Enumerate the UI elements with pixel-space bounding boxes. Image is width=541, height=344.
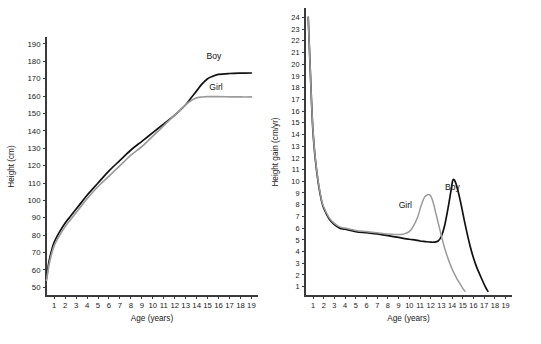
x-tick-label: 5 bbox=[354, 301, 358, 310]
y-tick-label: 18 bbox=[291, 83, 299, 92]
height-velocity-chart-svg: 1234567891011121314151617181920212223241… bbox=[270, 0, 541, 344]
y-tick-label: 7 bbox=[295, 212, 299, 221]
series-label-boy: Boy bbox=[207, 51, 223, 61]
x-tick-label: 12 bbox=[427, 301, 435, 310]
axis-lines bbox=[305, 8, 512, 296]
axes bbox=[305, 8, 512, 296]
y-tick-label: 120 bbox=[27, 161, 41, 170]
y-tick-label: 16 bbox=[291, 107, 299, 116]
y-tick-label: 90 bbox=[32, 213, 41, 222]
x-tick-label: 17 bbox=[480, 301, 488, 310]
x-tick-label: 6 bbox=[107, 301, 111, 310]
x-tick-label: 5 bbox=[96, 301, 101, 310]
chart-panel-height-distance: 5060708090100110120130140150160170180190… bbox=[0, 0, 271, 344]
y-tick-label: 70 bbox=[32, 248, 41, 257]
x-axis-title: Age (years) bbox=[131, 314, 174, 323]
axis-lines bbox=[46, 37, 258, 296]
series-label-girl: Girl bbox=[209, 82, 222, 92]
y-tick-label: 22 bbox=[291, 36, 299, 45]
series-girl bbox=[308, 17, 465, 291]
series-label-girl: Girl bbox=[399, 200, 412, 210]
x-tick-label: 10 bbox=[405, 301, 413, 310]
y-tick-label: 170 bbox=[27, 74, 41, 83]
growth-charts-figure: 5060708090100110120130140150160170180190… bbox=[0, 0, 541, 344]
x-tick-label: 8 bbox=[386, 301, 390, 310]
series-boy bbox=[308, 17, 488, 291]
curve-boy bbox=[308, 17, 488, 291]
x-tick-label: 8 bbox=[129, 301, 133, 310]
y-tick-label: 10 bbox=[291, 177, 299, 186]
y-tick-label: 14 bbox=[291, 130, 299, 139]
x-tick-label: 12 bbox=[170, 301, 179, 310]
y-tick-label: 13 bbox=[291, 142, 299, 151]
y-tick-label: 4 bbox=[295, 247, 299, 256]
x-tick-label: 4 bbox=[85, 301, 90, 310]
x-tick-label: 13 bbox=[437, 301, 445, 310]
x-tick-label: 6 bbox=[364, 301, 368, 310]
x-tick-label: 13 bbox=[181, 301, 190, 310]
x-tick-label: 1 bbox=[311, 301, 315, 310]
x-tick-label: 18 bbox=[236, 301, 245, 310]
y-tick-label: 12 bbox=[291, 154, 299, 163]
x-tick-label: 14 bbox=[192, 301, 201, 310]
y-tick-label: 60 bbox=[32, 266, 41, 275]
y-tick-label: 5 bbox=[295, 236, 299, 245]
series-boy bbox=[47, 73, 252, 279]
x-tick-label: 4 bbox=[343, 301, 347, 310]
x-axis-ticks: 12345678910111213141516171819 bbox=[311, 296, 510, 310]
x-tick-label: 18 bbox=[491, 301, 499, 310]
series-girl bbox=[47, 97, 252, 281]
axes bbox=[46, 37, 258, 296]
x-axis-title: Age (years) bbox=[387, 314, 430, 323]
y-tick-label: 190 bbox=[27, 40, 41, 49]
chart-panel-height-velocity: 1234567891011121314151617181920212223241… bbox=[270, 0, 541, 344]
x-tick-label: 14 bbox=[448, 301, 456, 310]
y-tick-label: 21 bbox=[291, 48, 299, 57]
series-label-boy: Boy bbox=[445, 182, 461, 192]
y-tick-label: 150 bbox=[27, 109, 41, 118]
y-tick-label: 3 bbox=[295, 259, 299, 268]
x-tick-label: 2 bbox=[63, 301, 67, 310]
x-tick-label: 9 bbox=[397, 301, 401, 310]
y-tick-label: 130 bbox=[27, 144, 41, 153]
x-tick-label: 3 bbox=[74, 301, 78, 310]
x-tick-label: 11 bbox=[416, 301, 424, 310]
y-tick-label: 23 bbox=[291, 25, 299, 34]
x-tick-label: 2 bbox=[322, 301, 326, 310]
x-tick-label: 16 bbox=[214, 301, 223, 310]
curve-girl bbox=[308, 17, 465, 291]
y-tick-label: 140 bbox=[27, 127, 41, 136]
curve-girl bbox=[47, 97, 252, 281]
x-tick-label: 17 bbox=[225, 301, 234, 310]
y-axis-title: Height (cm) bbox=[7, 145, 16, 188]
x-tick-label: 1 bbox=[52, 301, 56, 310]
x-tick-label: 19 bbox=[501, 301, 509, 310]
y-tick-label: 24 bbox=[291, 13, 299, 22]
y-tick-label: 11 bbox=[292, 165, 300, 174]
y-tick-label: 8 bbox=[295, 200, 299, 209]
y-tick-label: 6 bbox=[295, 224, 299, 233]
y-tick-label: 50 bbox=[32, 283, 41, 292]
x-tick-label: 3 bbox=[332, 301, 336, 310]
y-axis-ticks: 5060708090100110120130140150160170180190 bbox=[27, 40, 46, 292]
x-tick-label: 10 bbox=[148, 301, 157, 310]
y-tick-label: 15 bbox=[291, 118, 299, 127]
y-tick-label: 9 bbox=[295, 189, 299, 198]
y-tick-label: 100 bbox=[27, 196, 41, 205]
y-tick-label: 2 bbox=[295, 271, 299, 280]
x-tick-label: 19 bbox=[247, 301, 256, 310]
y-tick-label: 160 bbox=[27, 92, 41, 101]
x-tick-label: 7 bbox=[118, 301, 122, 310]
y-axis-title: Height gain (cm/yr) bbox=[271, 117, 280, 186]
x-tick-label: 7 bbox=[375, 301, 379, 310]
y-tick-label: 19 bbox=[291, 72, 299, 81]
y-tick-label: 1 bbox=[295, 282, 299, 291]
x-tick-label: 9 bbox=[140, 301, 144, 310]
x-axis-ticks: 12345678910111213141516171819 bbox=[52, 296, 256, 310]
y-tick-label: 80 bbox=[32, 231, 41, 240]
y-tick-label: 17 bbox=[291, 95, 299, 104]
x-tick-label: 15 bbox=[203, 301, 212, 310]
x-tick-label: 11 bbox=[160, 301, 168, 310]
y-tick-label: 110 bbox=[28, 179, 41, 188]
y-tick-label: 20 bbox=[291, 60, 299, 69]
